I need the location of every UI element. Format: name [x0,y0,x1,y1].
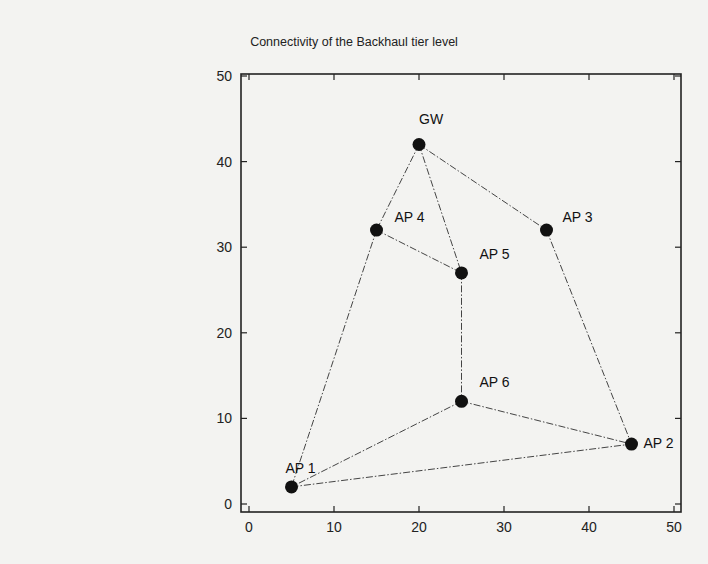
node-label: GW [419,111,444,127]
node-label: AP 6 [480,374,510,390]
edge-line [419,144,462,272]
edge-line [292,401,462,487]
y-tick-label: 10 [216,410,232,426]
node-marker [413,138,426,151]
y-tick-label: 30 [216,239,232,255]
y-tick-label: 20 [216,325,232,341]
edges-layer [292,144,632,486]
node-marker [370,224,383,237]
node-label: AP 1 [286,460,316,476]
y-tick-label: 40 [216,154,232,170]
node-label: AP 4 [395,209,425,225]
edge-line [419,144,547,230]
node-label: AP 2 [644,435,674,451]
edge-line [462,401,632,444]
node-marker [540,224,553,237]
x-tick-label: 50 [666,519,682,535]
x-tick-label: 10 [326,519,342,535]
edge-line [547,230,632,444]
node-marker [285,480,298,493]
x-tick-label: 20 [411,519,427,535]
x-tick-label: 0 [245,519,253,535]
node-label: AP 3 [563,209,593,225]
nodes-layer: GWAP 1AP 2AP 3AP 4AP 5AP 6 [285,111,674,493]
y-tick-label: 50 [216,68,232,84]
x-tick-label: 40 [581,519,597,535]
x-tick-label: 30 [496,519,512,535]
y-tick-label: 0 [224,496,232,512]
node-marker [625,438,638,451]
node-marker [455,395,468,408]
node-label: AP 5 [480,246,510,262]
edge-line [292,230,377,487]
edge-line [292,444,632,487]
node-marker [455,266,468,279]
edge-line [377,230,462,273]
network-chart: 0102030405001020304050 GWAP 1AP 2AP 3AP … [0,0,708,564]
